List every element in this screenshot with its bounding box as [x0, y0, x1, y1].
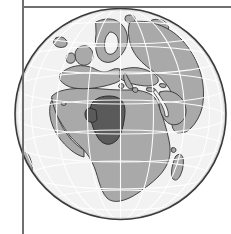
landmass-island-crete	[146, 88, 155, 92]
landmass-island-comoros	[171, 148, 176, 153]
globe-illustration	[0, 0, 231, 234]
highlighted-country-niger-west-lobe	[85, 108, 97, 122]
landmass-island-sardinia	[119, 84, 125, 89]
globe-svg	[0, 0, 231, 234]
page-rule-vertical	[22, 0, 24, 234]
landmass-british-isles	[75, 46, 93, 66]
landmass-island-cyprus	[159, 84, 166, 88]
page-rule-horizontal	[22, 6, 231, 8]
figure-canvas	[0, 0, 231, 234]
landmass-island-sicily	[132, 88, 138, 93]
